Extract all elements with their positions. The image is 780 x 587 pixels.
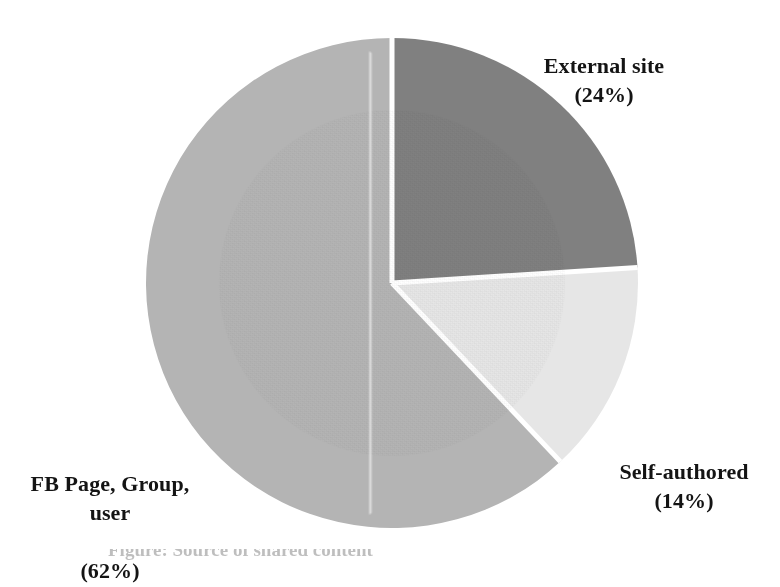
caption-remnant: Figure: Source of shared content: [108, 549, 538, 562]
pie-label-external-site-name: External site: [544, 53, 664, 78]
pie-label-fb-page-group-user: FB Page, Group, user (62%): [4, 440, 216, 587]
pie-label-self-authored-percent: (14%): [588, 486, 780, 515]
pie-label-external-site: External site (24%): [498, 22, 710, 138]
pie-label-fb-line2: user: [4, 498, 216, 527]
caption-remnant-text: Figure: Source of shared content: [108, 549, 538, 561]
pie-label-self-authored: Self-authored (14%): [588, 428, 780, 544]
pie-label-external-site-percent: (24%): [498, 80, 710, 109]
pie-label-self-authored-name: Self-authored: [619, 459, 748, 484]
pie-label-fb-line1: FB Page, Group,: [31, 471, 190, 496]
